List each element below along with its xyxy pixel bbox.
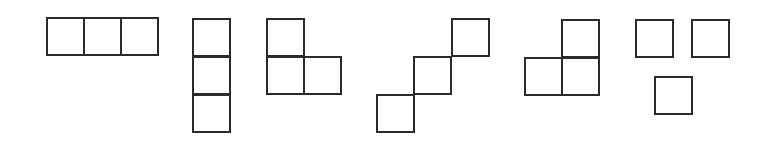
square-cell [121, 18, 158, 55]
shape-horizontal-tromino [47, 18, 158, 55]
shape-vertical-tromino [193, 19, 230, 132]
square-cell [267, 19, 304, 56]
shapes-layer [47, 18, 729, 132]
square-cell [655, 77, 692, 114]
shape-l-tromino [267, 19, 341, 94]
square-cell [377, 95, 414, 132]
square-cell [193, 19, 230, 56]
square-cell [193, 57, 230, 94]
square-cell [452, 19, 489, 56]
square-cell [84, 18, 121, 55]
square-cell [562, 58, 599, 95]
square-cell [562, 20, 599, 57]
shape-diagonal-tromino [377, 19, 489, 132]
tromino-diagram [0, 0, 772, 147]
square-cell [47, 18, 84, 55]
square-cell [193, 95, 230, 132]
square-cell [692, 20, 729, 57]
square-cell [525, 58, 562, 95]
shape-separated-squares [636, 20, 729, 114]
square-cell [636, 20, 673, 57]
square-cell [414, 57, 451, 94]
square-cell [267, 57, 304, 94]
square-cell [304, 57, 341, 94]
shape-reverse-l-tromino [525, 20, 599, 95]
